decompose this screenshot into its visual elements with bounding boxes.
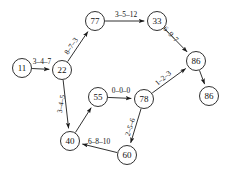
node-label: 86	[205, 91, 215, 101]
node-55-n55[interactable]: 55	[89, 88, 108, 107]
edge-n86a-n86b	[200, 70, 205, 84]
edge-n55-n78	[108, 97, 131, 98]
node-label: 55	[94, 92, 104, 102]
edge-n11-n22	[32, 69, 49, 70]
diagram-canvas: 3–4–78–7–33–5–126–9–73–4–50–0–01–2–32–5–…	[0, 0, 230, 178]
edge-label-n22-n77: 8–7–3	[62, 36, 80, 57]
node-label: 78	[140, 94, 150, 104]
node-40-n40[interactable]: 40	[61, 132, 80, 151]
edge-label-n22-n40: 3–4–5	[55, 94, 67, 114]
node-78-n78[interactable]: 78	[135, 90, 154, 109]
node-86-n86a[interactable]: 86	[187, 52, 206, 71]
edge-label-n11-n22: 3–4–7	[33, 57, 52, 66]
node-label: 22	[58, 65, 67, 75]
edge-label-n60-n40: 6–8–10	[88, 137, 110, 146]
edge-label-n55-n78: 0–0–0	[112, 86, 131, 95]
graph-svg: 3–4–78–7–33–5–126–9–73–4–50–0–01–2–32–5–…	[0, 0, 230, 178]
node-label: 60	[123, 150, 133, 160]
node-label: 11	[18, 63, 27, 73]
node-label: 33	[153, 16, 163, 26]
edge-n40-n55	[75, 108, 91, 133]
node-22-n22[interactable]: 22	[53, 61, 72, 80]
node-label: 77	[91, 16, 101, 26]
node-60-n60[interactable]: 60	[118, 146, 137, 165]
node-label: 86	[192, 56, 202, 66]
node-11-n11[interactable]: 11	[13, 59, 32, 78]
node-77-n77[interactable]: 77	[86, 12, 105, 31]
node-label: 40	[66, 136, 76, 146]
edge-label-n77-n33: 3–5–12	[115, 10, 137, 19]
node-33-n33[interactable]: 33	[148, 12, 167, 31]
node-86-n86b[interactable]: 86	[200, 87, 219, 106]
